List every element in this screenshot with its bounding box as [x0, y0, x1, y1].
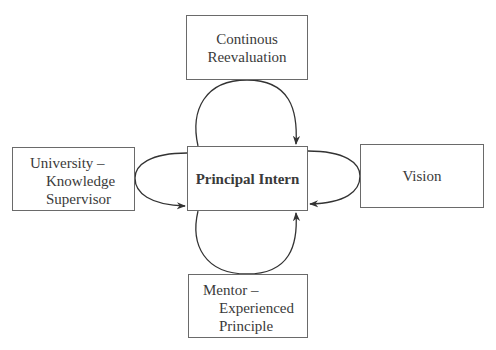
- center-box-label: Principal Intern: [196, 170, 300, 188]
- top-box: Continous Reevaluation: [186, 15, 308, 80]
- right-box-label: Vision: [402, 167, 441, 185]
- top-loop-arrow: [196, 80, 296, 146]
- top-box-line-2: Reevaluation: [207, 48, 286, 66]
- center-box: Principal Intern: [187, 146, 308, 211]
- left-loop-arrow: [135, 153, 187, 206]
- left-box-line-1: University –: [30, 154, 134, 172]
- top-box-line-1: Continous: [216, 30, 278, 48]
- bottom-box: Mentor – Experienced Principle: [188, 274, 308, 338]
- left-box: University – Knowledge Supervisor: [12, 147, 135, 211]
- bottom-box-line-1: Mentor –: [203, 281, 307, 299]
- bottom-loop-arrow: [196, 211, 296, 274]
- bottom-box-line-3: Principle: [203, 317, 307, 335]
- bottom-box-line-2: Experienced: [203, 299, 307, 317]
- right-loop-arrow: [308, 151, 360, 204]
- right-box: Vision: [360, 144, 484, 208]
- left-box-line-3: Supervisor: [30, 190, 134, 208]
- left-box-line-2: Knowledge: [30, 172, 134, 190]
